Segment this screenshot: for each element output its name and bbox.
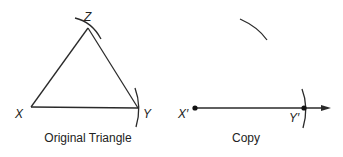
point-y-prime bbox=[301, 105, 306, 110]
label-y-prime: Y′ bbox=[289, 111, 300, 125]
caption-original-triangle: Original Triangle bbox=[44, 131, 132, 145]
ray-arrowhead-icon bbox=[321, 105, 331, 111]
original-triangle bbox=[31, 18, 139, 127]
caption-copy: Copy bbox=[232, 131, 260, 145]
label-x-prime: X′ bbox=[177, 107, 189, 121]
construction-diagram: Z X Y Original Triangle X′ Y′ Copy bbox=[0, 0, 343, 157]
side-zy bbox=[88, 28, 138, 108]
label-x: X bbox=[14, 107, 24, 121]
copy-construction bbox=[195, 19, 324, 128]
point-x-prime bbox=[192, 105, 197, 110]
side-xz bbox=[31, 28, 88, 107]
label-y: Y bbox=[143, 107, 152, 121]
label-z: Z bbox=[83, 10, 92, 24]
arc-upper bbox=[240, 19, 267, 40]
side-xy bbox=[31, 107, 138, 108]
